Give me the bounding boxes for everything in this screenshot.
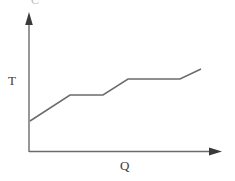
y-axis-label: T bbox=[8, 74, 16, 87]
heating-curve-line bbox=[30, 69, 201, 121]
x-axis-arrowhead bbox=[209, 148, 222, 156]
y-axis-arrowhead bbox=[25, 12, 33, 25]
figure-container: T Q C bbox=[0, 0, 235, 181]
top-clipped-label: C bbox=[31, 0, 39, 6]
x-axis-label: Q bbox=[120, 159, 129, 172]
heating-curve-plot bbox=[0, 0, 235, 181]
